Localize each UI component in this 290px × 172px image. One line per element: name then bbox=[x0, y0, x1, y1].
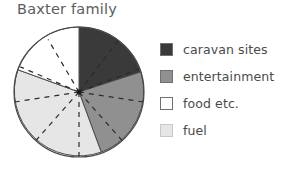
legend-swatch-food-etc bbox=[160, 97, 173, 110]
legend-label-caravan-sites: caravan sites bbox=[183, 42, 268, 57]
legend-swatch-caravan-sites bbox=[160, 43, 173, 56]
pie-chart bbox=[12, 25, 148, 161]
legend-swatch-entertainment bbox=[160, 70, 173, 83]
pie-chart-svg bbox=[12, 25, 148, 161]
legend-swatch-fuel bbox=[160, 124, 173, 137]
legend-item-entertainment[interactable]: entertainment bbox=[160, 63, 288, 90]
legend-label-food-etc: food etc. bbox=[183, 96, 239, 111]
legend-item-caravan-sites[interactable]: caravan sites bbox=[160, 36, 288, 63]
legend-label-entertainment: entertainment bbox=[183, 69, 274, 84]
legend-item-food-etc[interactable]: food etc. bbox=[160, 90, 288, 117]
legend: caravan sites entertainment food etc. fu… bbox=[160, 36, 288, 144]
pie-center-dot bbox=[77, 90, 82, 95]
legend-label-fuel: fuel bbox=[183, 123, 207, 138]
chart-title: Baxter family bbox=[17, 1, 117, 17]
legend-item-fuel[interactable]: fuel bbox=[160, 117, 288, 144]
